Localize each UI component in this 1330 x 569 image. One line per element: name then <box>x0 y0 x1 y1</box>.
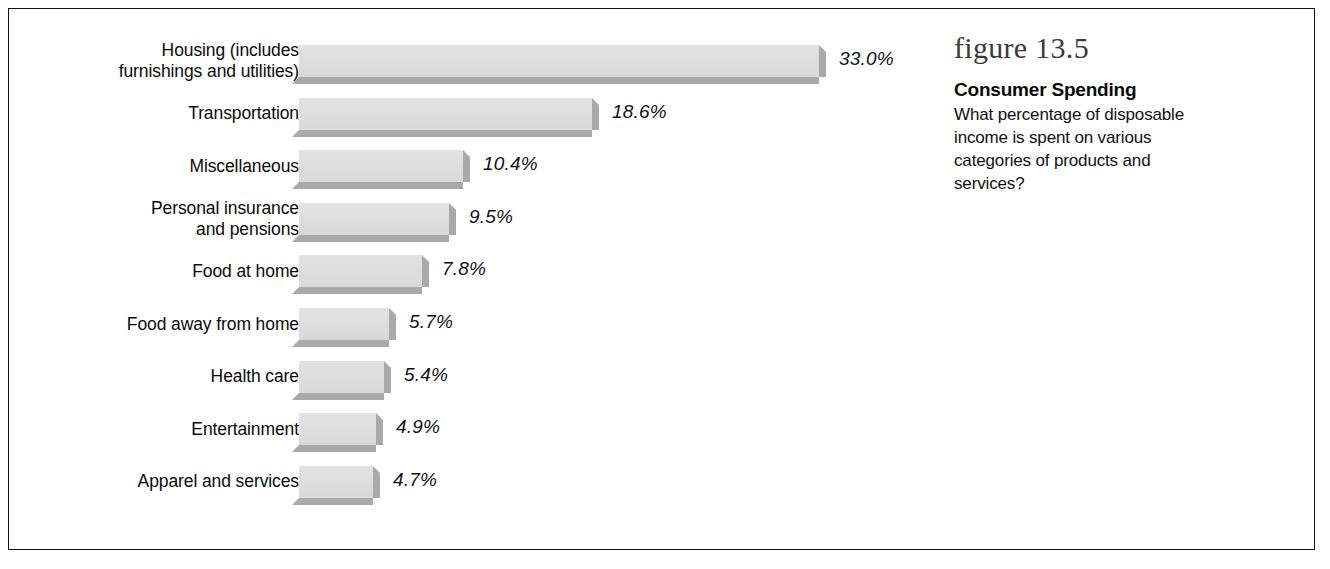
caption-description: What percentage of disposable income is … <box>954 103 1224 195</box>
bar-right-bevel <box>384 361 391 393</box>
bar-face <box>299 308 389 340</box>
bar-face <box>299 361 384 393</box>
bar-value-label: 10.4% <box>483 153 538 175</box>
bar-row: Apparel and services4.7% <box>9 466 944 518</box>
bar-face <box>299 466 373 498</box>
bar <box>299 413 383 453</box>
bar-right-bevel <box>449 203 456 235</box>
bar-right-bevel <box>389 308 396 340</box>
bar-right-bevel <box>376 413 383 445</box>
bar-category-label: Health care <box>9 366 299 387</box>
bar-category-label: Food at home <box>9 261 299 282</box>
bar <box>299 466 380 506</box>
bar-category-label: Apparel and services <box>9 471 299 492</box>
bar-category-label: Food away from home <box>9 314 299 335</box>
bar-face <box>299 413 376 445</box>
bar-category-label: Miscellaneous <box>9 156 299 177</box>
bar-value-label: 5.4% <box>404 364 448 386</box>
bar-row: Entertainment4.9% <box>9 413 944 465</box>
bar-chart: Housing (includes furnishings and utilit… <box>9 9 944 551</box>
bar-category-label: Transportation <box>9 103 299 124</box>
figure-frame: Housing (includes furnishings and utilit… <box>8 8 1315 550</box>
figure-number: figure 13.5 <box>954 33 1254 63</box>
bar-category-label: Entertainment <box>9 419 299 440</box>
bar-row: Miscellaneous10.4% <box>9 150 944 202</box>
bar-bottom-bevel <box>299 182 463 189</box>
bar <box>299 98 599 138</box>
bar-bottom-bevel <box>299 340 389 347</box>
bar-face <box>299 203 449 235</box>
caption-panel: figure 13.5 Consumer Spending What perce… <box>954 33 1254 195</box>
bar-value-label: 5.7% <box>409 311 453 333</box>
bar-bottom-bevel <box>299 77 819 84</box>
bar-right-bevel <box>422 255 429 287</box>
bar <box>299 361 391 401</box>
bar <box>299 308 396 348</box>
bar-category-label: Housing (includes furnishings and utilit… <box>9 40 299 82</box>
bar-face <box>299 255 422 287</box>
bar-face <box>299 150 463 182</box>
bar <box>299 150 470 190</box>
bar-right-bevel <box>592 98 599 130</box>
bar-right-bevel <box>373 466 380 498</box>
bar-row: Health care5.4% <box>9 361 944 413</box>
bar-value-label: 4.9% <box>396 416 440 438</box>
bar-row: Food at home7.8% <box>9 255 944 307</box>
bar-row: Personal insurance and pensions9.5% <box>9 203 944 255</box>
bar <box>299 45 826 85</box>
bar-bottom-bevel <box>299 445 376 452</box>
bar-value-label: 33.0% <box>839 48 894 70</box>
bar-bottom-bevel <box>299 235 449 242</box>
bar-value-label: 18.6% <box>612 101 667 123</box>
bar-face <box>299 45 819 77</box>
bar-value-label: 7.8% <box>442 258 486 280</box>
bar-value-label: 4.7% <box>393 469 437 491</box>
bar-face <box>299 98 592 130</box>
bar-bottom-bevel <box>299 498 373 505</box>
bar-bottom-bevel <box>299 393 384 400</box>
bar-row: Food away from home5.7% <box>9 308 944 360</box>
bar-value-label: 9.5% <box>469 206 513 228</box>
bar-bottom-bevel <box>299 287 422 294</box>
figure-page: Housing (includes furnishings and utilit… <box>0 0 1330 569</box>
bar-right-bevel <box>463 150 470 182</box>
bar <box>299 255 429 295</box>
bar-category-label: Personal insurance and pensions <box>9 198 299 240</box>
caption-title: Consumer Spending <box>954 79 1254 101</box>
bar-row: Housing (includes furnishings and utilit… <box>9 45 944 97</box>
bar-bottom-bevel <box>299 130 592 137</box>
bar <box>299 203 456 243</box>
bar-right-bevel <box>819 45 826 77</box>
bar-row: Transportation18.6% <box>9 98 944 150</box>
